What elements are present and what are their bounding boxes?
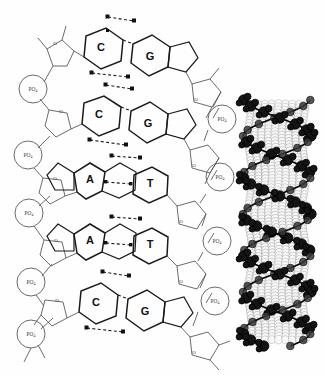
atom-sphere — [258, 297, 265, 304]
atom-sphere — [280, 238, 286, 244]
base-label-C-1: C — [97, 41, 105, 53]
sugar-o-left-3: O — [53, 176, 57, 181]
atom-sphere — [289, 309, 296, 316]
atom-sphere — [307, 279, 314, 286]
atom-sphere — [294, 237, 301, 244]
atom-sphere — [299, 201, 306, 208]
sugar-o-left-4: O — [54, 238, 58, 243]
space-filling-helix-panel — [236, 93, 318, 352]
atom-sphere — [255, 120, 263, 128]
atom-sphere — [272, 196, 278, 202]
base-label-G-2: G — [144, 117, 153, 129]
sugar-o-right-3: O — [179, 219, 183, 224]
atom-sphere — [272, 274, 278, 280]
atom-sphere — [287, 186, 295, 194]
atom-sphere — [303, 315, 310, 322]
atom-sphere — [249, 318, 257, 326]
sugar-o-right-1: O — [194, 97, 198, 102]
atom-sphere — [294, 144, 302, 152]
atom-sphere — [310, 165, 317, 172]
atom-sphere — [263, 225, 270, 232]
atom-sphere — [279, 306, 287, 314]
sugar-o-left-1: O — [53, 41, 57, 46]
atom-sphere — [280, 316, 286, 322]
atom-sphere — [311, 129, 318, 136]
atom-sphere — [310, 321, 317, 328]
atom-sphere — [255, 339, 262, 346]
atom-sphere — [279, 228, 287, 236]
base-label-T-4: T — [147, 238, 154, 250]
atom-sphere — [265, 105, 272, 112]
base-label-A-4: A — [86, 234, 94, 246]
atom-sphere — [236, 334, 242, 340]
atom-sphere — [294, 300, 302, 308]
atom-sphere — [247, 291, 254, 298]
base-label-C-2: C — [95, 108, 103, 120]
atom-sphere — [265, 261, 272, 268]
atom-sphere — [262, 156, 270, 164]
atom-sphere — [294, 222, 302, 230]
atom-sphere — [243, 262, 249, 268]
atom-sphere — [239, 298, 245, 304]
atom-sphere — [300, 102, 308, 110]
atom-sphere — [299, 130, 305, 136]
atom-sphere — [304, 216, 312, 224]
atom-sphere — [256, 268, 262, 274]
atom-sphere — [281, 111, 288, 118]
atom-sphere — [249, 148, 255, 154]
sugar-o-right-2: O — [192, 163, 196, 168]
sugar-o-right-5: O — [192, 350, 196, 355]
base-label-G-5: G — [141, 305, 150, 317]
atom-sphere — [236, 327, 243, 334]
atom-sphere — [287, 195, 294, 202]
atom-sphere — [252, 255, 259, 262]
atom-sphere — [239, 220, 245, 226]
atom-sphere — [255, 276, 263, 284]
atom-sphere — [294, 244, 300, 250]
atom-sphere — [256, 190, 262, 196]
atom-sphere — [272, 118, 278, 124]
base-label-T-3: T — [147, 177, 154, 189]
atom-sphere — [288, 202, 294, 208]
atom-sphere — [307, 123, 314, 130]
atom-sphere — [239, 142, 245, 148]
atom-sphere — [249, 240, 257, 248]
atom-sphere — [307, 330, 315, 338]
atom-sphere — [262, 234, 270, 242]
atom-sphere — [294, 166, 300, 172]
atom-sphere — [256, 112, 262, 118]
atom-sphere — [297, 117, 304, 124]
atom-sphere — [300, 258, 308, 266]
atom-sphere — [243, 333, 250, 340]
atom-sphere — [288, 124, 294, 130]
atom-sphere — [304, 138, 312, 146]
atom-sphere — [243, 177, 250, 184]
atom-sphere — [288, 280, 294, 286]
atom-sphere — [299, 286, 305, 292]
atom-sphere — [243, 184, 249, 190]
atom-sphere — [256, 346, 262, 352]
atom-sphere — [236, 178, 242, 184]
atom-sphere — [262, 312, 270, 320]
atom-sphere — [294, 322, 300, 328]
atom-sphere — [280, 160, 286, 166]
base-label-C-5: C — [92, 296, 100, 308]
dna-figure: PO4 PO4 PO4 PO4 PO4 O — [0, 0, 325, 375]
atom-sphere — [249, 226, 255, 232]
sugar-o-right-4: O — [179, 279, 183, 284]
atom-sphere — [304, 207, 311, 214]
atom-sphere — [244, 249, 251, 256]
atom-sphere — [244, 93, 251, 100]
atom-sphere — [297, 273, 304, 280]
atom-sphere — [304, 294, 312, 302]
sugar-o-left-2: O — [59, 109, 63, 114]
atom-sphere — [311, 285, 318, 292]
atom-sphere — [287, 342, 295, 350]
atom-sphere — [243, 106, 249, 112]
atom-sphere — [289, 153, 296, 160]
base-label-A-3: A — [86, 173, 94, 185]
atom-sphere — [236, 100, 242, 106]
atom-sphere — [271, 189, 278, 196]
atom-sphere — [248, 219, 255, 226]
atom-sphere — [281, 267, 288, 274]
